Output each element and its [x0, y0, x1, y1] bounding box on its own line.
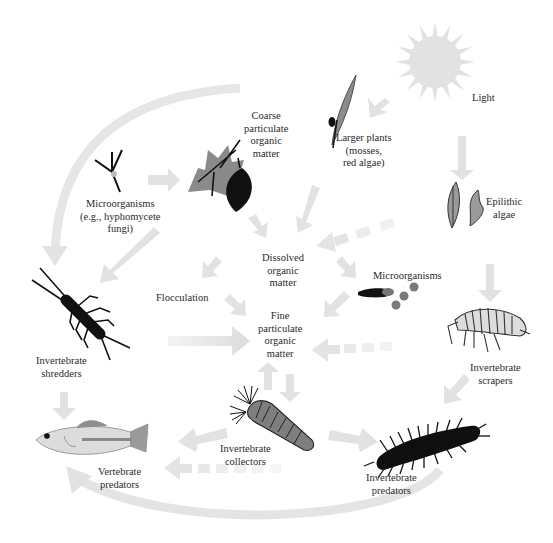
hellgrammite-icon [364, 418, 490, 478]
arrow-shredders-to-fish [52, 392, 76, 420]
label-scrapers: Invertebrate scrapers [470, 362, 521, 387]
algae-icon [448, 182, 483, 228]
arrow-light-to-algae [450, 136, 474, 180]
leaves-icon [188, 140, 252, 212]
arrow-dom-to-floc [202, 256, 222, 278]
arrow-collectors-to-fpom [257, 362, 279, 390]
arrow-light-to-plants [368, 98, 390, 118]
arrow-floc-to-fpom [224, 294, 246, 316]
label-microorganisms: Microorganisms [373, 270, 442, 283]
label-light: Light [472, 92, 495, 105]
fish-icon [36, 420, 148, 454]
label-dom: Dissolved organic matter [262, 252, 304, 290]
arrow-shredders-to-fpom [168, 326, 250, 356]
dashed-arrow-algae-to-dom [316, 218, 395, 252]
arrow-scrapers-to-predators [444, 374, 470, 404]
arrow-algae-to-scrapers [478, 264, 502, 302]
arrow-plants-to-dom [296, 185, 320, 233]
arrow-micro-to-fpom [324, 291, 350, 317]
label-collectors: Invertebrate collectors [220, 443, 271, 468]
label-microorganisms-fungi: Microorganisms (e.g., hyphomycete fungi) [80, 198, 160, 236]
label-shredders: Invertebrate shredders [36, 355, 87, 380]
label-epilithic-algae: Epilithic algae [486, 196, 522, 221]
amphipod-icon [448, 308, 530, 352]
label-vert-predators: Vertebrate predators [98, 466, 141, 491]
stonefly-icon [32, 268, 130, 360]
label-larger-plants: Larger plants (mosses, red algae) [336, 132, 392, 170]
label-cpom: Coarse particulate organic matter [244, 110, 288, 160]
hypha-icon [95, 150, 122, 192]
blackfly-larva-icon [230, 386, 314, 450]
label-flocculation: Flocculation [156, 292, 209, 305]
bacteria-icon [358, 283, 419, 310]
arrow-cpom-to-dom [248, 214, 268, 238]
label-invert-predators: Invertebrate predators [366, 472, 417, 497]
arrow-fpom-to-collectors [279, 374, 301, 402]
sun-icon [395, 22, 475, 102]
arrow-collectors-to-predators [328, 428, 378, 452]
arrow-fungi-to-cpom [148, 168, 180, 192]
dashed-arrow-scrapers-to-fpom [312, 338, 392, 362]
arrow-dom-to-micro [336, 256, 356, 278]
label-fpom: Fine particulate organic matter [258, 310, 302, 360]
